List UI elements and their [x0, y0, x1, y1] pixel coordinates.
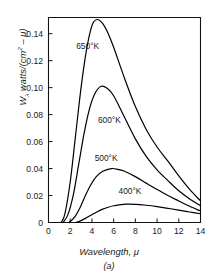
y-axis-title-tail: – μ): [18, 28, 28, 47]
y-axis-title-superscript: 2: [16, 47, 23, 51]
x-tick-label: 10: [152, 226, 162, 236]
series-label-650K: 650°K: [76, 41, 99, 51]
x-tick-label: 6: [111, 226, 116, 236]
x-tick-label: 14: [196, 226, 206, 236]
x-tick-label: 4: [90, 226, 95, 236]
x-tick-label: 8: [133, 226, 138, 236]
blackbody-radiation-chart: 0246810121400.020.040.060.080.100.120.14…: [0, 0, 218, 277]
y-axis-title: Wλ watts/(cm2 – μ): [16, 0, 30, 142]
x-tick-label: 12: [174, 226, 184, 236]
curve-annotations: 650°K600°K500°K400°K: [76, 41, 142, 195]
x-tick-label: 0: [46, 226, 51, 236]
axes-group: 0246810121400.020.040.060.080.100.120.14: [26, 18, 205, 237]
series-label-500K: 500°K: [95, 153, 118, 163]
y-tick-label: 0: [38, 218, 43, 228]
y-axis-title-units: watts/(cm: [18, 51, 28, 94]
series-line-400K: [76, 204, 201, 222]
y-tick-label: 0.02: [26, 191, 43, 201]
y-tick-label: 0.04: [26, 164, 43, 174]
figure-container: 0246810121400.020.040.060.080.100.120.14…: [0, 0, 218, 277]
series-label-400K: 400°K: [119, 186, 142, 196]
x-tick-label: 2: [68, 226, 73, 236]
x-axis-title: Wavelength, μ: [0, 246, 218, 257]
y-axis-title-symbol: W: [18, 97, 28, 106]
series-label-600K: 600°K: [98, 115, 121, 125]
y-axis-title-subscript: λ: [23, 94, 30, 97]
figure-caption: (a): [0, 261, 218, 271]
